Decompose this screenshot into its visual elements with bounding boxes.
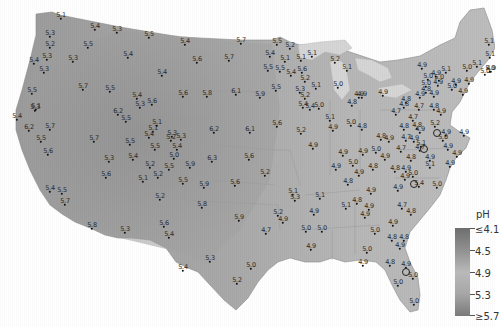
station-ph-label: 5.5	[105, 84, 115, 91]
station-ph-label: 4.8	[406, 207, 416, 214]
station-ph-label: 4.9	[360, 210, 370, 217]
station-ph-label: 4.8	[387, 233, 397, 240]
station-ph-label: 4.9	[309, 207, 319, 214]
station-ph-label: 4.7	[261, 226, 271, 233]
station-ph-label: 5.3	[68, 54, 78, 61]
station-ph-label: 5.1	[315, 191, 325, 198]
station-ph-label: 6.3	[207, 154, 217, 161]
station-ph-label: 5.5	[275, 64, 285, 71]
station-ph-label: 4.9	[338, 148, 348, 155]
station-ph-label: 5.4	[172, 142, 182, 149]
station-ph-label: 5.4	[45, 184, 55, 191]
station-ph-label: 4.7	[414, 102, 424, 109]
station-ph-label: 5.8	[197, 200, 207, 207]
station-ph-label: 5.3	[39, 65, 49, 72]
station-ph-label: 5.1	[472, 59, 482, 66]
legend-label-min: ≤4.1	[475, 224, 499, 235]
station-ph-label: 5.3	[135, 100, 145, 107]
station-ph-label: 4.9	[433, 78, 443, 85]
station-ph-label: 5.6	[43, 147, 53, 154]
station-ph-label: 5.1	[152, 118, 162, 125]
station-ph-label: 5.1	[425, 160, 435, 167]
station-ph-label: 5.0	[462, 63, 472, 70]
station-ph-label: 5.1	[325, 113, 335, 120]
station-ph-label: 5.5	[144, 30, 154, 37]
station-ph-label: 4.9	[459, 128, 469, 135]
station-ph-label: 5.0	[421, 79, 431, 86]
station-ph-label: 4.7	[408, 113, 418, 120]
station-ph-label: 4.7	[396, 144, 406, 151]
station-ph-label: 4.9	[400, 172, 410, 179]
station-ph-label: 5.1	[341, 201, 351, 208]
station-ph-label: 4.8	[399, 100, 409, 107]
station-ph-label: 5.4	[90, 22, 100, 29]
station-ph-label: 5.2	[300, 91, 310, 98]
station-ph-label: 5.5	[27, 86, 37, 93]
legend-label: 4.9	[475, 268, 491, 279]
station-ph-label: 5.0	[371, 145, 381, 152]
station-ph-label: 5.6	[272, 119, 282, 126]
station-ph-label: 5.3	[290, 193, 300, 200]
station-ph-label: 5.6	[159, 219, 169, 226]
station-ph-label: 5.0	[346, 118, 356, 125]
station-ph-label: 5.6	[147, 97, 157, 104]
station-ph-label: 5.1	[280, 54, 290, 61]
station-ph-label: 4.9	[417, 61, 427, 68]
station-ph-label: 5.6	[192, 55, 202, 62]
station-ph-label: 5.5	[272, 37, 282, 44]
station-ph-label: 5.6	[178, 89, 188, 96]
station-ph-label: 5.3	[104, 154, 114, 161]
city-marker-icon	[420, 145, 428, 153]
station-ph-label: 5.4	[128, 152, 138, 159]
station-ph-label: 5.5	[263, 63, 273, 70]
station-ph-label: 4.8	[399, 122, 409, 129]
station-ph-label: 4.8	[352, 196, 362, 203]
station-ph-label: 5.7	[60, 197, 70, 204]
station-ph-label: 5.2	[330, 55, 340, 62]
station-ph-label: 5.4	[265, 49, 275, 56]
station-ph-label: 5.0	[370, 226, 380, 233]
station-ph-label: 5.4	[12, 112, 22, 119]
station-ph-label: 5.2	[166, 133, 176, 140]
station-ph-label: 5.4	[286, 68, 296, 75]
city-marker-icon	[433, 129, 441, 137]
station-ph-label: 5.3	[112, 25, 122, 32]
station-ph-label: 4.8	[347, 98, 357, 105]
station-ph-label: 5.5	[36, 134, 46, 141]
station-ph-label: 5.5	[121, 114, 131, 121]
station-ph-label: 5.3	[30, 103, 40, 110]
station-ph-label: 4.9	[464, 76, 474, 83]
station-ph-label: 4.9	[436, 107, 446, 114]
station-ph-label: 4.9	[393, 183, 403, 190]
station-ph-label: 5.3	[45, 29, 55, 36]
station-ph-label: 5.4	[180, 37, 190, 44]
station-ph-label: 5.7	[236, 36, 246, 43]
station-ph-label: 5.6	[244, 152, 254, 159]
station-ph-label: 6.2	[24, 123, 34, 130]
station-ph-label: 5.4	[29, 56, 39, 63]
station-ph-label: 5.4	[144, 130, 154, 137]
station-ph-label: 5.2	[300, 74, 310, 81]
station-ph-label: 4.9	[451, 77, 461, 84]
station-ph-label: 5.6	[230, 178, 240, 185]
station-ph-label: 4.8	[376, 132, 386, 139]
station-ph-label: 5.0	[393, 278, 403, 285]
legend-label-max: ≥5.7	[475, 311, 499, 322]
legend-color-bar	[455, 228, 470, 316]
station-ph-label: 5.1	[342, 63, 352, 70]
station-ph-label: 5.5	[178, 176, 188, 183]
ph-legend: pH ≤4.1 4.5 4.9 5.3 ≥5.7	[440, 205, 495, 327]
station-ph-label: 4.8	[357, 122, 367, 129]
station-ph-label: 5.2	[45, 40, 55, 47]
station-ph-label: 4.9	[364, 202, 374, 209]
station-ph-label: 6.2	[209, 125, 219, 132]
station-ph-label: 5.7	[89, 134, 99, 141]
station-ph-label: 4.9	[395, 241, 405, 248]
station-ph-label: 5.9	[234, 213, 244, 220]
station-ph-label: 5.1	[441, 65, 451, 72]
station-ph-label: 4.8	[399, 233, 409, 240]
station-ph-label: 5.5	[150, 142, 160, 149]
station-ph-label: 5.2	[296, 126, 306, 133]
station-ph-label: 5.4	[123, 50, 133, 57]
station-ph-label: 4.9	[358, 147, 368, 154]
